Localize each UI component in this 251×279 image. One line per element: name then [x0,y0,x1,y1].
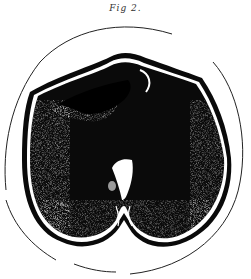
figure-illustration: Fig 2. [0,0,251,279]
small-spot [108,181,116,191]
cross-section-drawing [0,0,251,279]
